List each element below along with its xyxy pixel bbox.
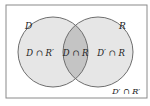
venn-diagram: D R D ∩ R′ D ∩ R D′ ∩ R D′ ∩ R′ [0,0,150,106]
region-intersection-label: D ∩ R [62,48,89,58]
region-d-only-label: D ∩ R′ [25,48,54,58]
set-r-label: R [118,21,126,31]
region-neither-label: D′ ∩ R′ [111,87,140,96]
region-r-only-label: D′ ∩ R [96,48,125,58]
set-d-label: D [24,21,32,31]
